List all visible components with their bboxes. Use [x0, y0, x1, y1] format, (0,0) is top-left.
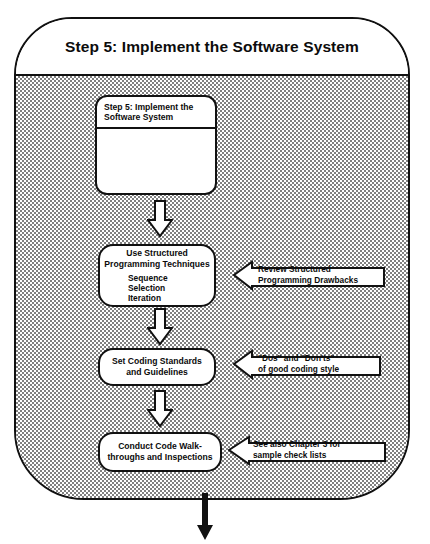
callout-review-line1: Review Structured — [258, 264, 358, 275]
node-structured-title-line1: Use Structured — [104, 248, 209, 258]
exit-flow-arrow-icon — [196, 493, 214, 541]
callout-dos-text: "Dos" and "Don'ts" of good coding style — [258, 348, 339, 380]
node-structured-title-line2: Programming Techniques — [104, 259, 209, 269]
node-step-5-header-line2: Software System — [104, 112, 209, 122]
flowchart-diagram: Step 5: Implement the Software System St… — [0, 0, 430, 544]
down-arrow-icon — [147, 200, 173, 238]
callout-dos-line1: "Dos" and "Don'ts" — [258, 353, 339, 364]
node-coding-standards-title: Set Coding Standards and Guidelines — [112, 356, 202, 377]
down-arrow-icon — [147, 390, 173, 428]
diagram-title-band: Step 5: Implement the Software System — [16, 19, 408, 76]
callout-dos-and-donts[interactable]: "Dos" and "Don'ts" of good coding style — [233, 348, 381, 380]
page-title: Step 5: Implement the Software System — [65, 38, 359, 56]
callout-chapter-line2: sample check lists — [253, 450, 341, 461]
callout-chapter-reference[interactable]: See also Chapter 3 for sample check list… — [228, 434, 386, 466]
construct-selection: Selection — [128, 283, 212, 293]
node-structured-programming[interactable]: Use Structured Programming Techniques Se… — [98, 244, 216, 307]
node-step-5-box[interactable]: Step 5: Implement the Software System — [95, 95, 217, 195]
node-step-5-header: Step 5: Implement the Software System — [97, 97, 215, 129]
node-coding-standards[interactable]: Set Coding Standards and Guidelines — [98, 348, 216, 386]
node-step-5-body — [97, 129, 215, 189]
node-structured-constructs: Sequence Selection Iteration — [102, 273, 212, 304]
down-arrow-icon — [147, 308, 173, 346]
callout-review-text: Review Structured Programming Drawbacks — [258, 259, 358, 291]
node-structured-title: Use Structured Programming Techniques — [104, 248, 209, 269]
construct-sequence: Sequence — [128, 273, 212, 283]
callout-review-line2: Programming Drawbacks — [258, 275, 358, 286]
node-step-5-header-line1: Step 5: Implement the — [104, 102, 209, 112]
node-code-walkthroughs-line1: Conduct Code Walk- — [107, 441, 212, 452]
callout-chapter-line1: See also Chapter 3 for — [253, 439, 341, 450]
node-code-walkthroughs[interactable]: Conduct Code Walk- throughs and Inspecti… — [98, 432, 222, 472]
node-code-walkthroughs-title: Conduct Code Walk- throughs and Inspecti… — [107, 441, 212, 462]
node-coding-standards-line2: and Guidelines — [112, 367, 202, 378]
node-coding-standards-line1: Set Coding Standards — [112, 356, 202, 367]
callout-dos-line2: of good coding style — [258, 364, 339, 375]
construct-iteration: Iteration — [128, 293, 212, 303]
callout-review-drawbacks[interactable]: Review Structured Programming Drawbacks — [233, 259, 385, 291]
callout-chapter-text: See also Chapter 3 for sample check list… — [253, 434, 341, 466]
node-code-walkthroughs-line2: throughs and Inspections — [107, 452, 212, 463]
